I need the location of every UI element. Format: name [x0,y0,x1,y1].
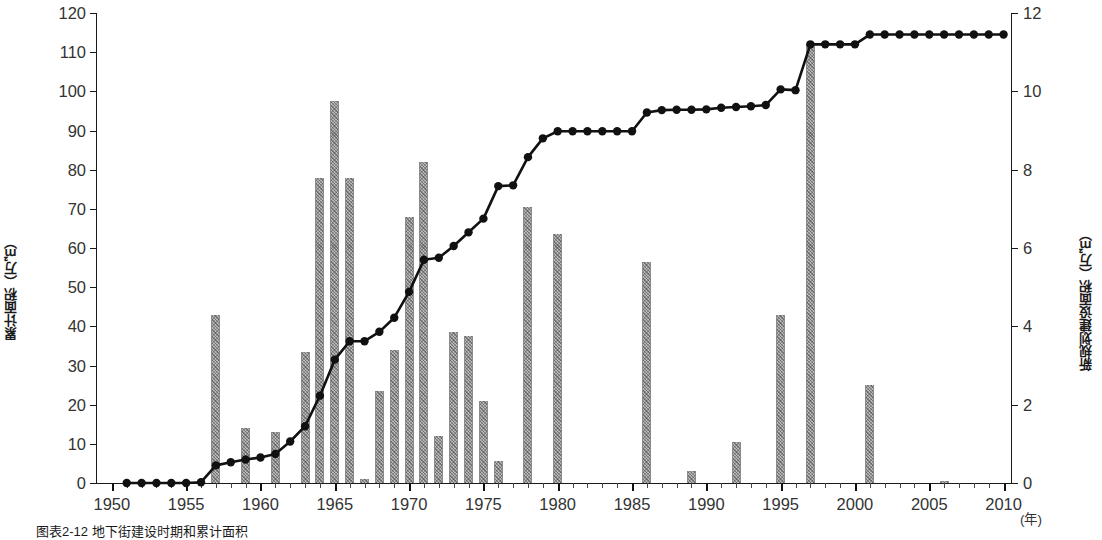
data-point-marker [123,479,131,487]
x-axis-major-tick [483,483,485,491]
x-axis-minor-tick [766,483,767,488]
y-axis-right-title: 新规划建设面积（万㎡） [1076,228,1095,371]
cumulative-line-series [97,13,1011,483]
data-point-marker [762,101,770,109]
y-axis-left-tick-label: 70 [68,199,86,218]
data-point-marker [836,40,844,48]
data-point-marker [880,30,888,38]
x-axis-minor-tick [810,483,811,488]
data-point-marker [776,85,784,93]
y-axis-left-tick [90,248,97,249]
y-axis-right-tick [1011,326,1018,327]
x-axis-minor-tick [454,483,455,488]
y-axis-right-tick-label: 0 [1023,474,1032,493]
y-axis-left-tick [90,52,97,53]
data-point-marker [955,30,963,38]
data-point-marker [360,337,368,345]
x-axis-tick-label: 1990 [688,495,725,514]
data-point-marker [539,134,547,142]
data-point-marker [256,453,264,461]
y-axis-left-tick [90,209,97,210]
y-axis-right-tick-label: 2 [1023,395,1032,414]
data-point-marker [212,461,220,469]
y-axis-right-tick-label: 4 [1023,317,1032,336]
x-axis-minor-tick [959,483,960,488]
x-axis-major-tick [1004,483,1006,491]
x-axis-minor-tick [379,483,380,488]
x-axis-minor-tick [350,483,351,488]
plot-inner: 0102030405060708090100110120 024681012 1… [97,13,1011,483]
data-point-marker [435,254,443,262]
y-axis-left-tick [90,131,97,132]
y-axis-right-tick [1011,248,1018,249]
data-point-marker [479,214,487,222]
data-point-marker [137,479,145,487]
y-axis-right-tick-label: 6 [1023,239,1032,258]
x-axis-major-tick [112,483,114,491]
y-axis-left-tick-label: 100 [58,82,86,101]
x-axis-unit-label: (年) [1020,508,1042,528]
x-axis-minor-tick [365,483,366,488]
data-point-marker [583,127,591,135]
data-point-marker [316,391,324,399]
data-point-marker [375,328,383,336]
plot-area: 0102030405060708090100110120 024681012 1… [96,13,1012,484]
y-axis-left-tick [90,326,97,327]
data-point-marker [702,105,710,113]
x-axis-minor-tick [602,483,603,488]
y-axis-left-title: 累计面积（万㎡） [1,236,20,340]
x-axis-minor-tick [736,483,737,488]
y-axis-left-tick-label: 90 [68,121,86,140]
y-axis-left-tick [90,405,97,406]
x-axis-minor-tick [870,483,871,488]
data-point-marker [449,242,457,250]
data-point-marker [672,106,680,114]
x-axis-major-tick [706,483,708,491]
data-point-marker [554,127,562,135]
y-axis-left-tick [90,366,97,367]
y-axis-right-tick [1011,170,1018,171]
x-axis-minor-tick [246,483,247,488]
x-axis-major-tick [260,483,262,491]
x-axis-minor-tick [647,483,648,488]
y-axis-right-tick [1011,13,1018,14]
x-axis-tick-label: 1980 [539,495,576,514]
data-point-marker [732,103,740,111]
y-axis-left-tick-label: 40 [68,317,86,336]
y-axis-left-tick-label: 10 [68,434,86,453]
data-point-marker [613,127,621,135]
y-axis-left-tick-label: 0 [77,474,86,493]
data-point-marker [509,181,517,189]
y-axis-left-tick-label: 80 [68,160,86,179]
x-axis-minor-tick [721,483,722,488]
x-axis-minor-tick [840,483,841,488]
data-point-marker [985,30,993,38]
x-axis-minor-tick [796,483,797,488]
data-point-marker [227,458,235,466]
x-axis-minor-tick [275,483,276,488]
data-point-marker [598,127,606,135]
x-axis-tick-label: 1985 [614,495,651,514]
data-point-marker [568,127,576,135]
data-point-marker [345,337,353,345]
y-axis-left-tick-label: 110 [60,43,86,62]
data-point-marker [895,30,903,38]
data-point-marker [821,40,829,48]
y-axis-left-tick [90,483,97,484]
x-axis-major-tick [558,483,560,491]
data-point-marker [420,256,428,264]
x-axis-minor-tick [469,483,470,488]
data-point-marker [999,30,1007,38]
x-axis-minor-tick [825,483,826,488]
x-axis-tick-label: 1995 [762,495,799,514]
data-point-marker [464,228,472,236]
x-axis-minor-tick [498,483,499,488]
x-axis-tick-label: 1975 [465,495,502,514]
data-point-marker [658,106,666,114]
data-point-marker [643,108,651,116]
y-axis-right-tick-label: 12 [1023,4,1041,23]
x-axis-minor-tick [320,483,321,488]
data-point-marker [687,106,695,114]
y-axis-right-tick [1011,405,1018,406]
data-point-marker [851,40,859,48]
